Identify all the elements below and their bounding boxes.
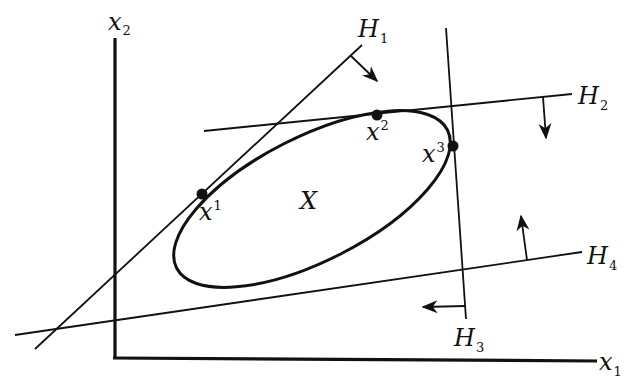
- h1-normal-arrow: [351, 56, 377, 81]
- hyperplane-h1: H1: [35, 15, 388, 349]
- x1-label: x1: [199, 198, 222, 226]
- hyperplane-h3: H3: [423, 28, 484, 355]
- set-label: X: [298, 187, 318, 215]
- x2-label: x2: [366, 118, 389, 146]
- h4-label: H4: [586, 242, 617, 273]
- hyperplane-h2: H2: [204, 82, 608, 138]
- h2-label: H2: [577, 82, 608, 113]
- h3-normal-arrow: [423, 306, 465, 307]
- x-axis: [113, 358, 597, 361]
- y-axis-label: x2: [108, 8, 131, 38]
- hyperplane-h4: H4: [15, 216, 617, 335]
- point-x3: x3: [422, 140, 459, 168]
- h1-label: H1: [357, 15, 388, 46]
- convex-set-diagram: x2 x1 X H1 H2 H3 H4: [0, 0, 627, 380]
- axes: x2 x1: [108, 8, 622, 379]
- h2-normal-arrow: [543, 97, 546, 138]
- h3-label: H3: [453, 324, 484, 355]
- h4-normal-arrow: [521, 216, 527, 260]
- x3-label: x3: [422, 140, 445, 168]
- x-axis-label: x1: [599, 348, 622, 379]
